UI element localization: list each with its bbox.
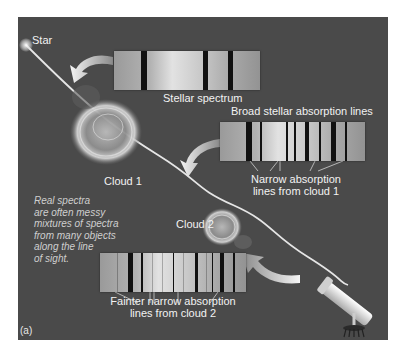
cloud1-spectrum-bar (220, 122, 365, 161)
broad-absorption-line (128, 253, 133, 292)
broad-absorption-line (246, 122, 252, 161)
narrow-lines-cloud1-label: Narrow absorption lines from cloud 1 (251, 173, 341, 197)
panel-letter-label: (a) (20, 325, 32, 336)
cloud-1-label: Cloud 1 (104, 175, 142, 187)
narrow-absorption-line (319, 122, 321, 161)
narrow-absorption-line (212, 253, 213, 292)
broad-absorption-line (141, 51, 147, 90)
stellar-spectrum-label: Stellar spectrum (163, 92, 242, 104)
cloud-1-icon (70, 85, 142, 165)
curved-arrow-2-icon (180, 139, 220, 177)
cloud1-pointer-lines (250, 161, 343, 171)
narrow-absorption-line (173, 253, 174, 292)
narrow-absorption-line (141, 253, 143, 292)
narrow-absorption-line (294, 122, 296, 161)
diagram-panel: Star Stellar spectrum Broad stellar abso… (18, 17, 388, 340)
telescope-icon (316, 276, 373, 337)
cloud2-spectrum-bar (100, 253, 246, 292)
broad-lines-label: Broad stellar absorption lines (231, 105, 373, 117)
real-spectra-note: Real spectra are often messy mixtures of… (34, 195, 118, 264)
narrow-absorption-line (345, 122, 347, 161)
narrow-absorption-line (260, 122, 262, 161)
narrow-absorption-line (286, 122, 288, 161)
curved-arrow-3-icon (242, 253, 300, 283)
curved-arrow-1-icon (70, 56, 113, 84)
star-label: Star (32, 34, 52, 46)
fainter-lines-cloud2-label: Fainter narrow absorption lines from clo… (108, 295, 238, 319)
broad-absorption-line (305, 122, 309, 161)
stellar-spectrum-bar (114, 51, 260, 90)
cloud-2-label: Cloud 2 (176, 218, 214, 230)
star-glow-icon (19, 38, 33, 52)
broad-absorption-line (195, 253, 198, 292)
broad-absorption-line (228, 51, 233, 90)
broad-absorption-line (220, 253, 224, 292)
narrow-absorption-line (233, 253, 235, 292)
broad-absorption-line (331, 122, 336, 161)
broad-absorption-line (203, 51, 208, 90)
